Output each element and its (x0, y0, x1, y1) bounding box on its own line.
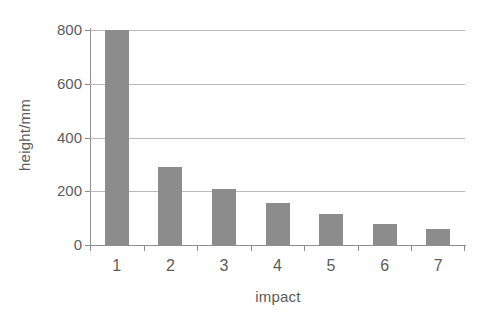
x-axis-tick-mark (144, 246, 145, 251)
x-axis-tick-label-group: 1234567 (90, 256, 466, 280)
x-axis-tick-label: 1 (97, 256, 137, 276)
gridline (90, 30, 465, 31)
x-axis-tick-mark (464, 246, 465, 251)
x-axis-tick-mark (411, 246, 412, 251)
x-axis-tick-label: 4 (258, 256, 298, 276)
y-axis-tick-label-group: 0200400600800 (34, 22, 82, 252)
x-axis-tick-mark (90, 246, 91, 251)
x-axis-tick-label: 3 (204, 256, 244, 276)
x-axis-tick-label: 5 (311, 256, 351, 276)
x-axis-tick-mark (304, 246, 305, 251)
gridline (90, 138, 465, 139)
bar (212, 189, 236, 245)
y-axis-tick-label: 400 (34, 130, 82, 145)
x-axis-tick-mark-group (90, 246, 466, 252)
bar-chart-figure: height/mm 0200400600800 1234567 impact (0, 0, 485, 323)
y-axis-tick-label: 800 (34, 22, 82, 37)
y-axis-tick-label: 600 (34, 76, 82, 91)
x-axis-tick-label: 7 (418, 256, 458, 276)
y-axis-tick-label: 200 (34, 183, 82, 198)
bar (373, 224, 397, 246)
y-axis-tick-label: 0 (34, 237, 82, 252)
x-axis-tick-mark (251, 246, 252, 251)
plot-area (90, 30, 465, 245)
bar (158, 167, 182, 245)
x-axis-tick-mark (197, 246, 198, 251)
x-axis-title: impact (90, 288, 466, 305)
bar (319, 214, 343, 245)
gridline (90, 191, 465, 192)
bar (426, 229, 450, 245)
x-axis-tick-label: 2 (150, 256, 190, 276)
bar (105, 30, 129, 245)
x-axis-tick-mark (358, 246, 359, 251)
gridline (90, 84, 465, 85)
x-axis-tick-label: 6 (365, 256, 405, 276)
bar (266, 203, 290, 245)
